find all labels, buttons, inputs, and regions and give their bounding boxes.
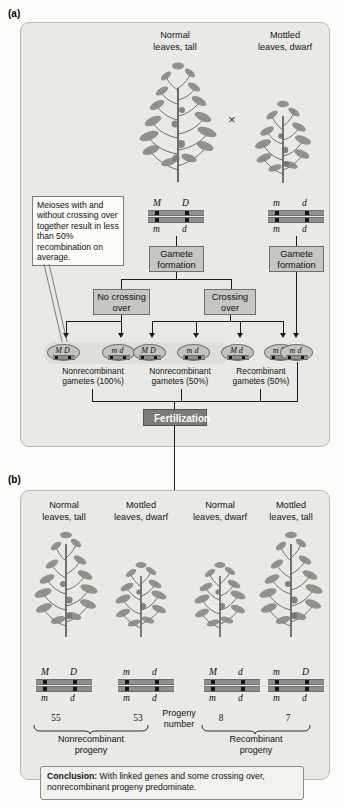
gamete-5: Md: [221, 344, 254, 361]
arrow-icon: [118, 333, 124, 338]
chromatid-bar: [268, 679, 324, 685]
progeny-3-chromosomes: M d m d: [204, 668, 266, 703]
gamete-2: md: [102, 344, 135, 361]
progeny-4-number: 7: [273, 713, 303, 723]
connector: [92, 401, 298, 402]
connector: [176, 236, 177, 246]
recombinant-brace: [200, 723, 312, 734]
crossing-over-box: Crossing over: [204, 289, 256, 315]
connector-to-panel-b: [174, 426, 175, 492]
connector: [196, 321, 197, 333]
progeny-1-label: Normal leaves, tall: [26, 500, 102, 523]
progeny-1-number: 55: [38, 713, 74, 723]
connector: [296, 272, 297, 333]
chromatid-bar: [36, 679, 92, 685]
connector: [231, 279, 232, 289]
parent-2-allele-row-top: m d: [268, 199, 330, 208]
progeny-4-chromosomes: m D m d: [268, 668, 330, 703]
panel-b-letter: (b): [8, 474, 21, 485]
gamete-4: md: [177, 344, 210, 361]
connector: [297, 362, 298, 401]
connector: [260, 389, 261, 401]
chromatid-bar: [118, 686, 174, 692]
parent-2-label-line1: Mottled: [240, 30, 330, 42]
parent-1-chromosomes: M D m d: [148, 199, 210, 234]
gamete-1: MD: [47, 344, 80, 361]
chromatid-bar: [204, 686, 260, 692]
conclusion-box: Conclusion: With linked genes and some c…: [40, 766, 304, 800]
connector: [296, 236, 297, 246]
parent-1-label-line2: leaves, tall: [120, 42, 230, 54]
parent-1-allele-row-bottom: m d: [148, 225, 210, 234]
arrow-icon: [193, 333, 199, 338]
progeny-3-number: 8: [206, 713, 236, 723]
conclusion-prefix: Conclusion:: [47, 771, 97, 781]
parent-2-label-line2: leaves, dwarf: [240, 42, 330, 54]
progeny-2-chromosomes: m d m d: [118, 668, 180, 703]
chromatid-bar: [204, 679, 260, 685]
arrow-icon: [280, 333, 286, 338]
arrow-icon: [149, 333, 155, 338]
progeny-2-plant-mottled-dwarf: [113, 556, 169, 638]
gamete-formation-box-right: Gamete formation: [269, 246, 324, 272]
connector: [92, 389, 93, 401]
chromatid-bar: [148, 217, 204, 223]
chromatid-bar: [148, 210, 204, 216]
chromatid-bar: [118, 679, 174, 685]
connector: [181, 389, 182, 401]
cross-symbol: ×: [228, 112, 236, 127]
connector: [66, 321, 122, 322]
progeny-4-plant-mottled-tall: [258, 528, 324, 638]
connector: [121, 279, 122, 289]
parent-2-allele-row-bottom: m d: [268, 225, 330, 234]
parent-1-allele-row-top: M D: [148, 199, 210, 208]
progeny-2-label: Mottled leaves, dwarf: [100, 500, 182, 523]
connector: [152, 321, 283, 322]
connector: [176, 272, 177, 279]
parent-2-chromosomes: m d m d: [268, 199, 330, 234]
gamete-7-maternal: md: [280, 344, 313, 361]
arrow-icon: [63, 333, 69, 338]
panel-a-letter: (a): [8, 8, 20, 19]
progeny-3-plant-normal-dwarf: [192, 556, 248, 638]
progeny-1-chromosomes: M D m d: [36, 668, 98, 703]
progeny-4-label: Mottled leaves, tall: [254, 500, 328, 523]
chromatid-bar: [36, 686, 92, 692]
callout-meiosis-note: Meioses with and without crossing over t…: [32, 196, 124, 266]
fertilization-box: Fertilization: [143, 409, 207, 426]
chromatid-bar: [268, 686, 324, 692]
no-crossing-over-box: No crossing over: [93, 289, 150, 315]
parent-1-plant-normal-tall: [135, 58, 221, 183]
chromatid-bar: [268, 210, 324, 216]
progeny-number-label: Progeny number: [153, 708, 205, 729]
gamete-3: MD: [133, 344, 166, 361]
gamete-formation-box-left: Gamete formation: [149, 246, 204, 272]
connector: [152, 321, 153, 333]
progeny-1-plant-normal-tall: [33, 528, 99, 638]
parent-2-label: Mottled leaves, dwarf: [240, 30, 330, 53]
progeny-2-number: 53: [120, 713, 156, 723]
nonrecombinant-brace: [32, 723, 150, 734]
connector: [174, 401, 175, 409]
arrow-icon: [237, 333, 243, 338]
recombinant-progeny-label: Recombinant progeny: [200, 734, 312, 756]
parent-2-plant-mottled-dwarf: [252, 92, 314, 184]
connector: [121, 321, 122, 333]
progeny-3-label: Normal leaves, dwarf: [180, 500, 260, 523]
parent-1-label-line1: Normal: [120, 30, 230, 42]
parent-1-label: Normal leaves, tall: [120, 30, 230, 53]
connector: [240, 321, 241, 333]
connector: [121, 279, 232, 280]
chromatid-bar: [268, 217, 324, 223]
gamete-caption-3: Recombinant gametes (50%): [213, 366, 309, 386]
connector: [66, 321, 67, 333]
nonrecombinant-progeny-label: Nonrecombinant progeny: [32, 734, 150, 756]
arrow-icon: [293, 333, 299, 338]
connector: [283, 321, 284, 333]
